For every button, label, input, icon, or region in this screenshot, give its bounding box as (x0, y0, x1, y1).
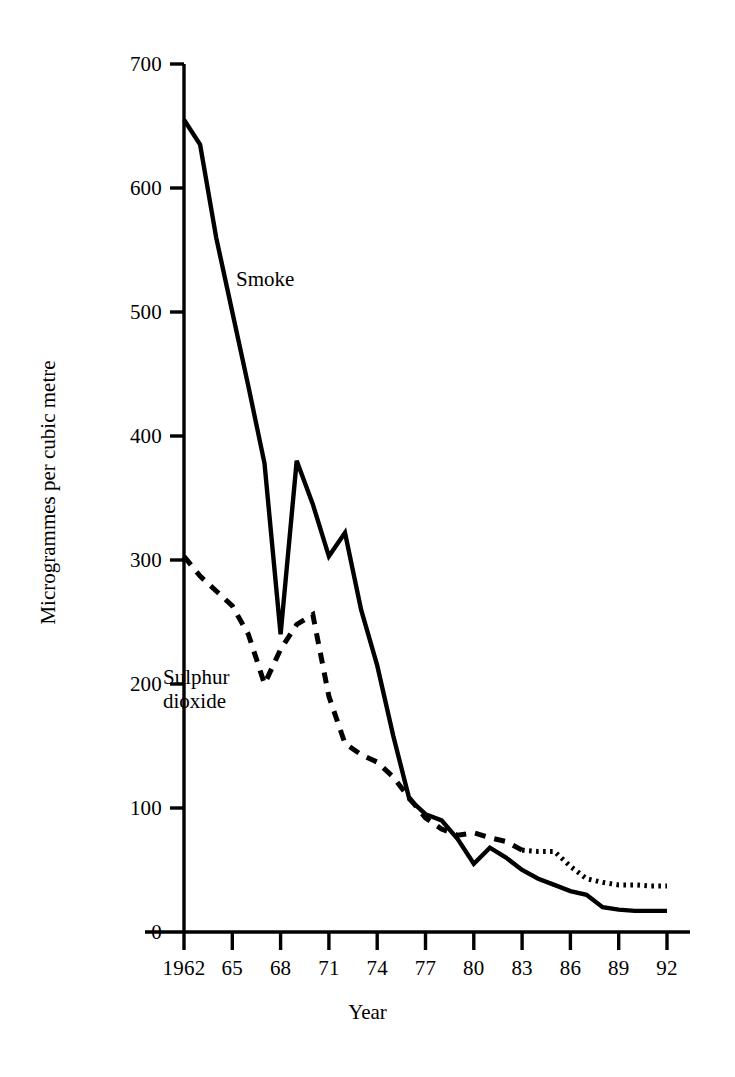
series-annotation-sulphur-dioxide-line2: dioxide (163, 690, 230, 714)
y-axis-title: Microgrammes per cubic metre (36, 233, 61, 753)
data-series-group (184, 120, 667, 911)
x-axis-tick-label: 71 (318, 958, 339, 979)
series-annotation-smoke: Smoke (236, 268, 294, 292)
axes (145, 64, 690, 950)
x-axis-title: Year (0, 1000, 735, 1025)
x-axis-tick-label: 68 (270, 958, 291, 979)
series-annotation-sulphur-dioxide-line1: Sulphur (163, 666, 230, 690)
chart-container: 0100200300400500600700 19626568717477808… (0, 0, 735, 1077)
x-axis-tick-label: 1962 (163, 958, 206, 979)
x-axis-tick-label: 77 (415, 958, 436, 979)
x-axis-tick-label: 86 (560, 958, 581, 979)
y-axis-tick-label: 300 (62, 550, 162, 571)
series-annotation-sulphur-dioxide: Sulphur dioxide (163, 666, 230, 713)
chart-plot-area (0, 0, 735, 1077)
x-axis-tick-label: 65 (222, 958, 243, 979)
y-axis-tick-label: 400 (62, 426, 162, 447)
series-line-smoke (184, 120, 667, 911)
y-axis-tick-label: 200 (62, 674, 162, 695)
y-axis-tick-label: 0 (62, 922, 162, 943)
x-axis-tick-label: 83 (511, 958, 532, 979)
y-axis-tick-label: 500 (62, 302, 162, 323)
y-axis-tick-label: 600 (62, 178, 162, 199)
x-axis-tick-label: 74 (366, 958, 387, 979)
x-axis-ticks (184, 932, 667, 950)
x-axis-tick-label: 92 (656, 958, 677, 979)
y-axis-tick-label: 100 (62, 798, 162, 819)
x-axis-tick-label: 89 (608, 958, 629, 979)
x-axis-tick-label: 80 (463, 958, 484, 979)
series-line-sulphur-dioxide-dashed (184, 556, 522, 850)
y-axis-tick-label: 700 (62, 54, 162, 75)
